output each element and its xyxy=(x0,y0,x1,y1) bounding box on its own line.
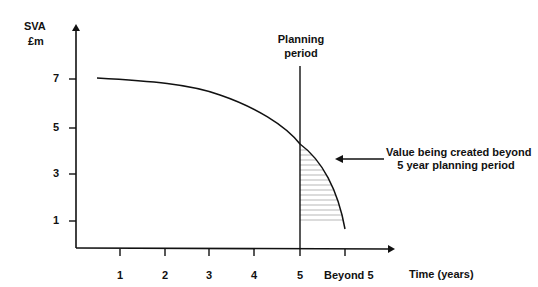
x-axis-label: Time (years) xyxy=(409,268,474,281)
x-tick-3: 3 xyxy=(206,269,212,281)
annotation-line2: 5 year planning period xyxy=(386,159,526,172)
y-tick-3: 3 xyxy=(53,167,59,179)
y-tick-7: 7 xyxy=(53,72,59,84)
x-axis-arrow-icon xyxy=(388,245,395,253)
y-axis-label-line1: SVA xyxy=(24,20,46,33)
sva-curve xyxy=(97,78,345,229)
annotation-arrowhead-icon xyxy=(335,155,343,163)
annotation-line1: Value being created beyond xyxy=(386,146,526,159)
x-tick-4: 4 xyxy=(251,269,257,281)
sva-diagram xyxy=(0,0,538,287)
y-axis-label-line2: £m xyxy=(28,35,44,48)
x-tick-1: 1 xyxy=(117,269,123,281)
x-tick-2: 2 xyxy=(162,269,168,281)
y-tick-1: 1 xyxy=(53,214,59,226)
planning-label-line1: Planning xyxy=(276,33,326,46)
x-tick-5: 5 xyxy=(297,269,303,281)
x-axis xyxy=(76,248,388,249)
y-tick-5: 5 xyxy=(53,121,59,133)
x-tick-beyond-5: Beyond 5 xyxy=(324,269,374,281)
y-axis-arrow-icon xyxy=(72,24,80,31)
planning-label-line2: period xyxy=(276,47,326,60)
